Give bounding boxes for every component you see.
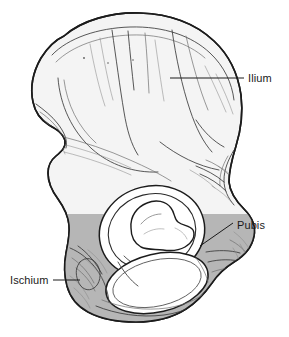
label-pubis-text: Pubis bbox=[237, 219, 265, 231]
anatomical-figure: Ilium Pubis Ischium bbox=[0, 0, 289, 337]
label-ischium-text: Ischium bbox=[10, 274, 49, 286]
bone-body bbox=[28, 13, 264, 337]
hip-bone-illustration: Ilium Pubis Ischium bbox=[0, 0, 289, 337]
label-ilium-text: Ilium bbox=[248, 72, 272, 84]
